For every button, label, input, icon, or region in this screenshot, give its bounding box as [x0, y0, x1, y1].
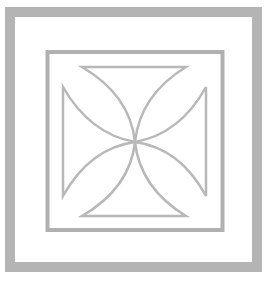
cross-emblem — [0, 0, 267, 281]
